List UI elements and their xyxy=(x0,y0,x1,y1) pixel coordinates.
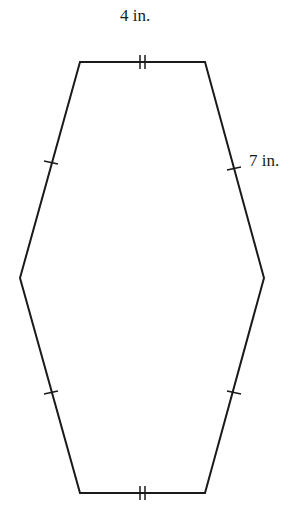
lower-right-side-tick xyxy=(227,391,241,394)
top-side-label: 4 in. xyxy=(120,6,150,25)
hexagon-outline xyxy=(20,62,264,493)
hexagon-diagram: 4 in. 7 in. xyxy=(0,0,298,523)
right-side-label: 7 in. xyxy=(249,151,279,170)
